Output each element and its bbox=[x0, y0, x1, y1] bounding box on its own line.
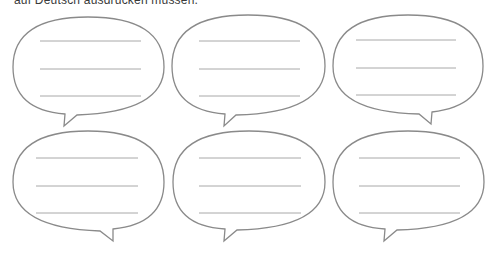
bubble-outline bbox=[333, 15, 483, 124]
speech-bubble-2[interactable] bbox=[172, 15, 325, 126]
speech-bubble-grid bbox=[0, 0, 491, 255]
speech-bubble-4[interactable] bbox=[13, 131, 164, 241]
speech-bubble-5[interactable] bbox=[173, 131, 325, 241]
bubble-outline bbox=[172, 15, 325, 126]
speech-bubble-1[interactable] bbox=[13, 17, 164, 126]
bubble-outline bbox=[13, 17, 164, 126]
speech-bubble-3[interactable] bbox=[333, 15, 483, 124]
speech-bubble-6[interactable] bbox=[333, 131, 484, 241]
